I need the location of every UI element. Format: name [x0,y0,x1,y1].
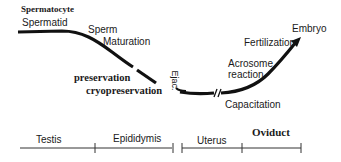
timeline-label-epididymis: Epididymis [113,134,161,144]
label-sperm: Sperm [88,25,117,35]
label-preservation: preservation [74,73,130,84]
label-fertilization: Fertilization [244,38,295,48]
label-reaction: reaction [228,70,264,80]
label-spermatid: Spermatid [22,18,68,28]
label-spermatocyte: Spermatocyte [21,5,74,14]
label-cryopreservation: cryopreservation [86,86,162,97]
label-ejaculation: Ejac. [170,70,179,90]
label-acrosome: Acrosome [228,59,273,69]
break-slash-2 [218,89,221,97]
pre-capacitation-segment [180,92,214,94]
timeline-label-testis: Testis [36,135,62,145]
label-embryo: Embryo [292,24,326,34]
sperm-lifecycle-diagram: Spermatocyte Spermatid Sperm Maturation … [0,0,341,162]
label-maturation: Maturation [103,37,150,47]
break-slash-1 [214,89,217,97]
label-capacitation: Capacitation [225,100,281,110]
timeline-label-uterus: Uterus [197,136,226,146]
preservation-curve-segment [137,70,156,83]
timeline-label-oviduct: Oviduct [252,127,290,138]
